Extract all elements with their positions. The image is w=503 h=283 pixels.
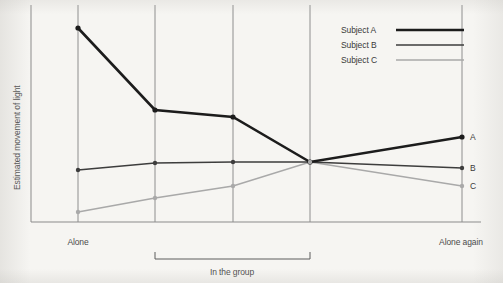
x-tick-label-alone: Alone bbox=[67, 237, 89, 247]
data-point-a-0 bbox=[75, 25, 80, 30]
chart-axes bbox=[31, 5, 481, 222]
data-point-b-2 bbox=[231, 160, 235, 164]
data-point-b-0 bbox=[76, 168, 80, 172]
group-bracket-label: In the group bbox=[210, 267, 255, 277]
chart-figure: A B C Estimated movement of light Alone … bbox=[0, 0, 503, 283]
data-point-c-1 bbox=[153, 196, 157, 200]
data-point-b-1 bbox=[153, 161, 157, 165]
y-axis-title: Estimated movement of light bbox=[12, 85, 22, 190]
legend-label-subject-a: Subject A bbox=[341, 25, 376, 35]
data-point-c-2 bbox=[231, 184, 235, 188]
series-line-subject-b bbox=[78, 162, 462, 170]
legend-label-subject-b: Subject B bbox=[341, 40, 377, 50]
line-chart: A B C Estimated movement of light Alone … bbox=[0, 0, 503, 283]
series-end-label-a: A bbox=[470, 132, 476, 142]
series-end-label-c: C bbox=[470, 181, 476, 191]
series-line-subject-a bbox=[78, 28, 462, 162]
data-point-c-4 bbox=[460, 184, 464, 188]
series-line-subject-c bbox=[78, 162, 462, 212]
chart-gridlines bbox=[78, 5, 462, 222]
chart-markers-group bbox=[75, 25, 464, 214]
data-point-a-4 bbox=[459, 134, 464, 139]
data-point-a-1 bbox=[152, 107, 157, 112]
legend-label-subject-c: Subject C bbox=[341, 55, 377, 65]
data-point-b-4 bbox=[460, 166, 464, 170]
data-point-a-2 bbox=[230, 114, 235, 119]
chart-series-group bbox=[78, 28, 462, 212]
series-end-label-b: B bbox=[470, 163, 476, 173]
data-point-c-0 bbox=[76, 210, 80, 214]
data-point-c-3 bbox=[308, 160, 312, 164]
group-bracket bbox=[155, 252, 310, 259]
chart-legend: Subject A Subject B Subject C bbox=[341, 25, 464, 65]
x-tick-label-alone-again: Alone again bbox=[439, 237, 483, 247]
